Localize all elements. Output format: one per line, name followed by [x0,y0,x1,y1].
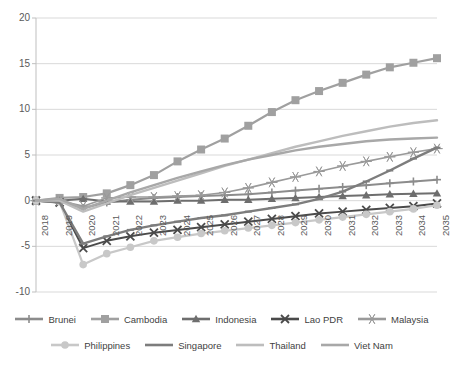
legend-label: Malaysia [391,314,429,325]
legend-square-icon [90,312,120,326]
legend-plus-icon [14,312,44,326]
gridlines [36,18,437,292]
data-marker [291,96,299,104]
legend-label: Brunei [48,314,75,325]
data-marker [268,108,276,116]
data-marker [79,261,87,269]
legend-label: Thailand [269,340,305,351]
data-marker [291,187,299,195]
data-marker [384,152,395,162]
x-tick-label: 2028 [276,215,286,236]
legend-item-philippines[interactable]: Philippines [50,338,130,352]
legend-item-indonesia[interactable]: Indonesia [181,312,256,326]
x-tick-label: 2021 [111,215,121,236]
data-marker [174,157,182,165]
data-marker [244,122,252,130]
data-marker [409,177,417,185]
legend-item-cambodia[interactable]: Cambodia [90,312,167,326]
y-tick-label: 20 [4,13,30,23]
y-tick-label: -5 [4,241,30,251]
legend-row: PhilippinesSingaporeThailandViet Nam [0,332,443,358]
data-marker [361,157,372,167]
data-marker [25,315,33,323]
legend-label: Viet Nam [354,340,393,351]
x-tick-label: 2020 [87,215,97,236]
legend-label: Singapore [178,340,221,351]
y-tick-label: 5 [4,150,30,160]
x-tick-label: 2018 [40,215,50,236]
series-viet-nam [36,138,437,209]
x-tick-label: 2031 [347,215,357,236]
legend-item-viet-nam[interactable]: Viet Nam [320,338,393,352]
data-marker [315,87,323,95]
legend-x-icon [270,312,300,326]
data-marker [362,71,370,79]
data-marker [127,243,135,251]
legend-item-lao-pdr[interactable]: Lao PDR [270,312,343,326]
x-tick-label: 2025 [205,215,215,236]
legend-triangle-icon [181,312,211,326]
y-tick-label: 10 [4,104,30,114]
data-marker [315,185,323,193]
data-marker [433,54,441,62]
data-marker [126,181,134,189]
data-marker [221,135,229,143]
legend-label: Cambodia [124,314,167,325]
data-marker [337,161,348,171]
x-tick-label: 2029 [299,215,309,236]
x-tick-label: 2034 [417,215,427,236]
x-tick-label: 2019 [64,215,74,236]
data-marker [367,314,378,324]
data-marker [314,167,325,177]
data-marker [103,250,111,258]
legend-circle-icon [50,338,80,352]
data-marker [409,59,417,67]
data-marker [433,201,441,209]
legend-item-malaysia[interactable]: Malaysia [357,312,429,326]
legend-asterisk-icon [357,312,387,326]
data-marker [410,205,418,213]
legend-line-icon [235,338,265,352]
data-marker [101,315,109,323]
data-marker [386,63,394,71]
legend-label: Lao PDR [304,314,343,325]
legend-item-brunei[interactable]: Brunei [14,312,75,326]
x-tick-label: 2030 [323,215,333,236]
x-tick-label: 2022 [134,215,144,236]
series-thailand [36,120,437,211]
legend-item-singapore[interactable]: Singapore [144,338,221,352]
data-marker [433,176,441,184]
y-tick-label: -10 [4,287,30,297]
x-tick-label: 2035 [441,215,451,236]
legend-row: BruneiCambodiaIndonesiaLao PDRMalaysia [0,306,443,332]
x-tick-label: 2032 [370,215,380,236]
data-marker [386,179,394,187]
data-marker [290,172,301,182]
x-tick-label: 2027 [252,215,262,236]
data-marker [61,341,69,349]
x-tick-label: 2026 [229,215,239,236]
legend-label: Indonesia [215,314,256,325]
legend-line-icon [320,338,350,352]
legend-label: Philippines [84,340,130,351]
data-marker [197,146,205,154]
data-marker [150,171,158,179]
chart-legend: BruneiCambodiaIndonesiaLao PDRMalaysiaPh… [0,306,443,364]
x-tick-label: 2024 [182,215,192,236]
legend-dash-icon [144,338,174,352]
y-tick-label: 15 [4,59,30,69]
data-marker [266,178,277,188]
data-marker [339,79,347,87]
data-marker [150,237,158,245]
x-tick-label: 2023 [158,215,168,236]
y-tick-label: 0 [4,196,30,206]
legend-item-thailand[interactable]: Thailand [235,338,305,352]
x-tick-label: 2033 [394,215,404,236]
